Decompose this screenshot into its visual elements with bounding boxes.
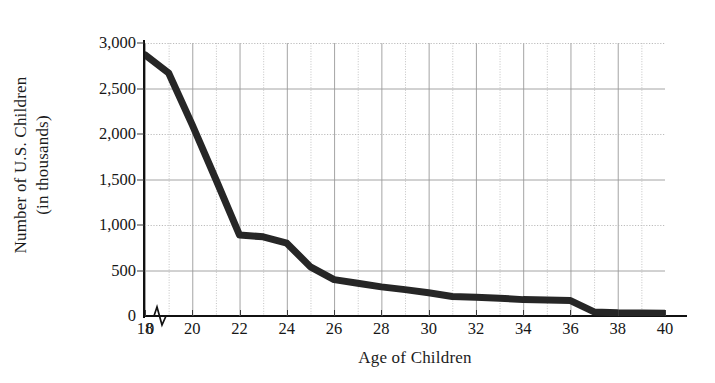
x-tick-label: 40 bbox=[645, 320, 685, 337]
y-tick-label: 500 bbox=[58, 262, 136, 279]
x-tick-mark bbox=[287, 310, 288, 316]
y-axis-title-line2: (in thousands) bbox=[32, 77, 54, 254]
x-tick-mark bbox=[192, 310, 193, 316]
y-tick-mark bbox=[137, 43, 144, 44]
x-tick-mark bbox=[240, 310, 241, 316]
x-tick-mark bbox=[476, 310, 477, 316]
data-line-0 bbox=[145, 55, 665, 313]
y-tick-label: 2,000 bbox=[58, 126, 136, 143]
vertical-gridlines bbox=[146, 43, 666, 316]
plot-area bbox=[145, 43, 665, 316]
x-tick-mark bbox=[145, 310, 146, 316]
x-tick-mark bbox=[429, 310, 430, 316]
y-tick-label: 1,500 bbox=[58, 171, 136, 188]
x-tick-mark bbox=[665, 310, 666, 316]
y-axis-title-line1: Number of U.S. Children bbox=[11, 77, 30, 254]
x-axis-title: Age of Children bbox=[145, 348, 685, 368]
x-tick-label: 24 bbox=[267, 320, 307, 337]
x-tick-label: 26 bbox=[314, 320, 354, 337]
y-tick-label-group: 05001,0001,5002,0002,5003,000 bbox=[56, 0, 136, 383]
x-tick-label: 22 bbox=[220, 320, 260, 337]
x-tick-mark bbox=[570, 310, 571, 316]
x-tick-label: 34 bbox=[503, 320, 543, 337]
x-tick-mark bbox=[618, 310, 619, 316]
chart-figure: Number of U.S. Children (in thousands) 0… bbox=[0, 0, 715, 383]
y-tick-label: 3,000 bbox=[58, 35, 136, 52]
x-tick-mark bbox=[334, 310, 335, 316]
y-tick-label: 1,000 bbox=[58, 217, 136, 234]
x-tick-label: 38 bbox=[598, 320, 638, 337]
y-tick-mark bbox=[137, 179, 144, 180]
plot-svg bbox=[145, 43, 665, 316]
y-tick-mark bbox=[137, 225, 144, 226]
y-tick-mark bbox=[137, 88, 144, 89]
horizontal-gridlines bbox=[145, 44, 665, 272]
y-tick-mark bbox=[137, 270, 144, 271]
y-tick-label: 2,500 bbox=[58, 80, 136, 97]
x-tick-mark bbox=[523, 310, 524, 316]
y-tick-mark bbox=[137, 134, 144, 135]
x-tick-label: 20 bbox=[172, 320, 212, 337]
x-tick-label: 36 bbox=[550, 320, 590, 337]
data-series-layer bbox=[145, 55, 665, 313]
x-tick-label: 32 bbox=[456, 320, 496, 337]
x-tick-label: 28 bbox=[361, 320, 401, 337]
x-tick-mark bbox=[381, 310, 382, 316]
y-axis-title: Number of U.S. Children (in thousands) bbox=[0, 0, 64, 330]
x-tick-label: 18 bbox=[125, 320, 165, 337]
x-tick-label: 30 bbox=[409, 320, 449, 337]
